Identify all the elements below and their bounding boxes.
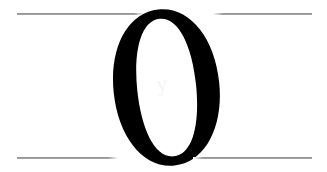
letter-o-glyph [96,8,236,168]
rule-line-bottom-right [193,157,312,159]
scanned-page: y [0,0,327,172]
rule-line-bottom-left [17,157,118,159]
letter-o-svg [96,8,236,168]
